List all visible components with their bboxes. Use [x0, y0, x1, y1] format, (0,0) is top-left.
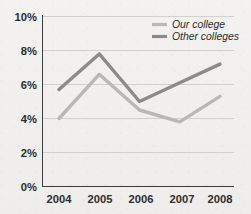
series-line-our-college — [59, 74, 220, 122]
y-tick-label: 4% — [21, 113, 37, 125]
legend: Our college Other colleges — [152, 19, 239, 42]
y-tick-label: 10% — [15, 11, 37, 23]
y-tick-label: 6% — [21, 79, 37, 91]
x-tick-label: 2005 — [88, 193, 113, 205]
y-tick-label: 8% — [21, 45, 37, 57]
series-group — [59, 54, 220, 122]
x-tick-label: 2006 — [129, 193, 154, 205]
chart-canvas: 10% 8% 6% 4% 2% 0% 2004 2005 2006 2007 2… — [0, 0, 251, 214]
line-chart: 10% 8% 6% 4% 2% 0% 2004 2005 2006 2007 2… — [0, 0, 251, 214]
y-axis-tick-labels: 10% 8% 6% 4% 2% 0% — [15, 11, 37, 193]
x-tick-label: 2004 — [47, 193, 73, 205]
x-tick-label: 2008 — [208, 193, 233, 205]
y-tick-label: 0% — [21, 181, 37, 193]
y-tick-label: 2% — [21, 147, 37, 159]
x-axis-tick-labels: 2004 2005 2006 2007 2008 — [47, 193, 233, 205]
legend-label-other-colleges: Other colleges — [172, 31, 239, 42]
legend-label-our-college: Our college — [172, 19, 225, 30]
x-tick-label: 2007 — [170, 193, 195, 205]
